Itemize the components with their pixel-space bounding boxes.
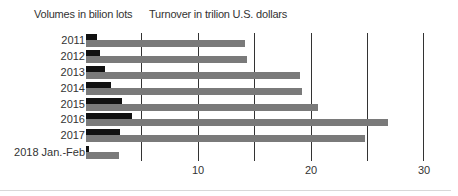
- x-tick-10: 10: [192, 164, 204, 176]
- bar-turnover-2015: [86, 104, 318, 111]
- gridline-30: [423, 33, 424, 161]
- x-tick-20: 20: [305, 164, 317, 176]
- bar-turnover-2016: [86, 119, 388, 126]
- bar-turnover-2014: [86, 88, 302, 95]
- bar-chart-plot: 10 20 30 2011 2012 2013 2014 2015 2016 2…: [0, 0, 458, 196]
- bar-turnover-2018-jan-feb: [86, 152, 119, 159]
- row-label-2012: 2012: [61, 50, 85, 62]
- bottom-divider: [0, 190, 451, 191]
- row-label-2017: 2017: [61, 129, 85, 141]
- row-label-2016: 2016: [61, 113, 85, 125]
- row-label-2018: 2018 Jan.-Feb: [14, 146, 85, 158]
- row-label-2011: 2011: [61, 34, 85, 46]
- row-label-2015: 2015: [61, 98, 85, 110]
- bar-turnover-2013: [86, 72, 300, 79]
- bar-turnover-2011: [86, 40, 245, 47]
- x-tick-30: 30: [418, 164, 430, 176]
- bar-turnover-2017: [86, 135, 365, 142]
- row-label-2014: 2014: [61, 82, 85, 94]
- gridline-25: [367, 33, 368, 161]
- bar-turnover-2012: [86, 56, 247, 63]
- row-label-2013: 2013: [61, 66, 85, 78]
